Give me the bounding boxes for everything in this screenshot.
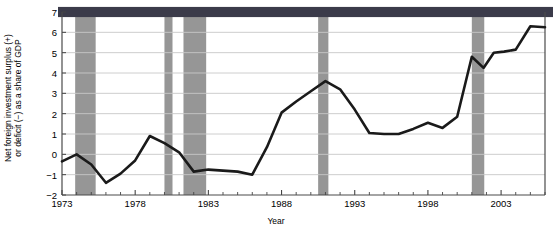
y-tick-label: 0 [52,149,57,160]
y-tick-label: 4 [52,68,57,79]
x-tick-label: 1978 [125,198,146,209]
x-tick-label: 2003 [491,198,512,209]
x-tick-label: 1983 [198,198,219,209]
y-tick-label: 7 [52,7,57,18]
x-tick-label: 1993 [344,198,365,209]
y-tick-label: 6 [52,27,57,38]
x-tick-label: 1973 [51,198,72,209]
top-band [58,7,553,17]
y-tick-label: −1 [46,169,57,180]
y-tick-label: 3 [52,88,57,99]
chart-figure: Net foreign investment surplus (+) or de… [0,0,557,234]
y-tick-label: 1 [52,129,57,140]
recession-bands [75,12,484,195]
x-axis-label: Year [267,216,284,226]
y-tick-label: 2 [52,108,57,119]
y-axis-label: Net foreign investment surplus (+) or de… [0,0,26,196]
y-tick-label: 5 [52,47,57,58]
x-tick-label: 1988 [271,198,292,209]
x-tick-label: 1998 [417,198,438,209]
